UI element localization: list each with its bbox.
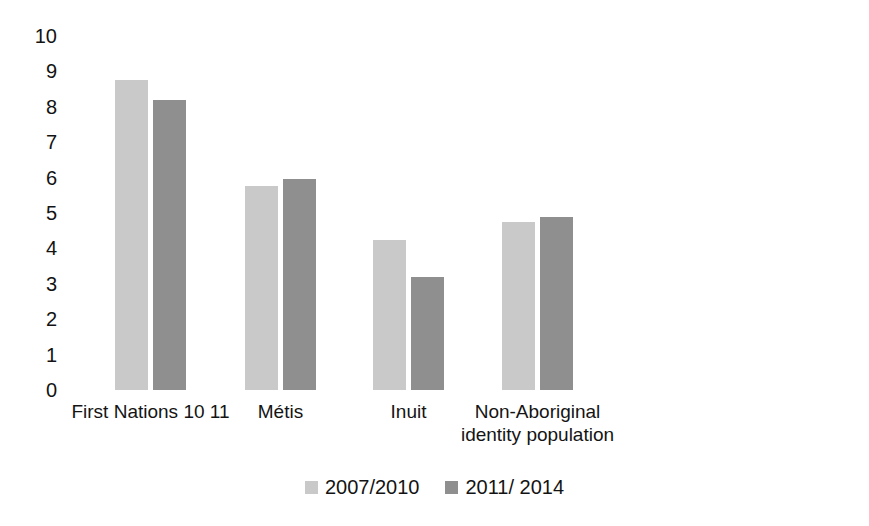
bar — [373, 240, 406, 390]
legend-item[interactable]: 2007/2010 — [305, 477, 420, 497]
bar-group — [245, 0, 316, 392]
bar — [502, 222, 535, 390]
y-axis-tick-label: 0 — [1, 380, 57, 400]
y-axis-tick-label: 8 — [1, 97, 57, 117]
x-axis-category-labels: First Nations 10 11MétisInuitNon-Aborigi… — [62, 400, 869, 460]
y-axis-tick-label: 3 — [1, 274, 57, 294]
bar — [540, 217, 573, 390]
legend-label: 2011/ 2014 — [465, 477, 564, 497]
bar-group — [115, 0, 186, 392]
y-axis-tick-label: 1 — [1, 345, 57, 365]
bar — [115, 80, 148, 390]
bar-group — [502, 0, 573, 392]
y-axis: 109876543210 — [0, 0, 62, 420]
y-axis-tick-label: 9 — [1, 61, 57, 81]
y-axis-tick-label: 6 — [1, 168, 57, 188]
y-axis-tick-label: 4 — [1, 238, 57, 258]
bar-group — [373, 0, 444, 392]
legend-label: 2007/2010 — [325, 477, 420, 497]
plot-area — [62, 0, 869, 392]
y-axis-tick-label: 2 — [1, 309, 57, 329]
y-axis-tick-label: 10 — [1, 26, 57, 46]
chart-legend: 2007/20102011/ 2014 — [0, 477, 869, 497]
legend-swatch-icon — [445, 481, 458, 494]
x-axis-label: Non-Aboriginal identity population — [408, 400, 668, 446]
bar — [245, 186, 278, 390]
bar — [283, 179, 316, 390]
bar — [411, 277, 444, 390]
y-axis-tick-label: 5 — [1, 203, 57, 223]
bar-chart: 109876543210 First Nations 10 11MétisInu… — [0, 0, 869, 526]
legend-swatch-icon — [305, 481, 318, 494]
bar — [153, 100, 186, 390]
legend-item[interactable]: 2011/ 2014 — [445, 477, 564, 497]
y-axis-tick-label: 7 — [1, 132, 57, 152]
